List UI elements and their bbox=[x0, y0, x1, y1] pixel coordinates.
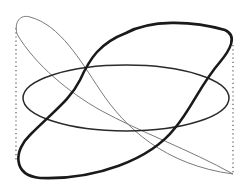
curves-diagram bbox=[0, 0, 252, 195]
thick-s-curve bbox=[18, 23, 231, 178]
ellipse bbox=[23, 65, 229, 131]
thin-curve bbox=[16, 16, 233, 174]
